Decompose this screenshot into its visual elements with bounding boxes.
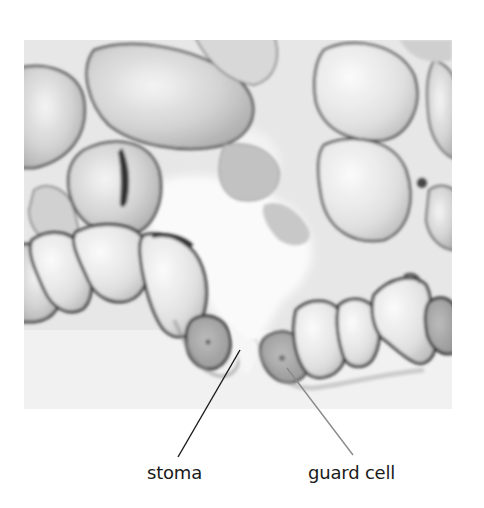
- guard-cell-label: guard cell: [308, 464, 395, 482]
- stoma-label: stoma: [147, 464, 202, 482]
- leaf-micrograph: [24, 40, 452, 409]
